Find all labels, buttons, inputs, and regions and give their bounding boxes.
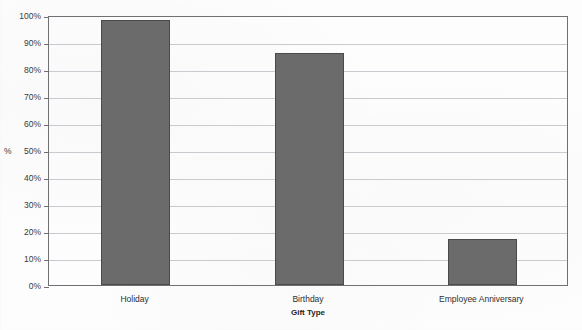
y-axis-tick-label: 10% xyxy=(0,254,41,264)
y-axis-tick xyxy=(44,233,49,234)
y-axis-tick xyxy=(44,206,49,207)
y-axis-tick-label: 90% xyxy=(0,38,41,48)
plot-area xyxy=(48,16,568,286)
y-axis-tick-label: 80% xyxy=(0,65,41,75)
x-axis-tick-label: Birthday xyxy=(292,294,323,304)
y-axis-tick-label: 40% xyxy=(0,173,41,183)
y-axis-tick xyxy=(44,152,49,153)
y-axis-tick xyxy=(44,260,49,261)
y-axis-tick xyxy=(44,98,49,99)
x-axis-tick-label: Holiday xyxy=(120,294,148,304)
y-axis-tick xyxy=(44,44,49,45)
y-axis-tick-label: 30% xyxy=(0,200,41,210)
y-axis-tick-label: 100% xyxy=(0,11,41,21)
x-axis-tick-label: Employee Anniversary xyxy=(439,294,524,304)
bar xyxy=(275,53,344,285)
y-axis-tick xyxy=(44,71,49,72)
y-axis-tick xyxy=(44,17,49,18)
bar-chart-figure: % 100%90%80%70%60%50%40%30%20%10%0% Holi… xyxy=(0,0,582,330)
bar xyxy=(448,239,517,285)
y-axis-tick xyxy=(44,287,49,288)
y-axis-tick-label: 20% xyxy=(0,227,41,237)
bar xyxy=(101,20,170,285)
chart-title xyxy=(0,0,582,1)
y-axis-tick-label: 0% xyxy=(0,281,41,291)
x-axis-title: Gift Type xyxy=(291,308,325,317)
y-axis-tick xyxy=(44,125,49,126)
y-axis-title: % xyxy=(4,146,12,156)
y-axis-tick-label: 60% xyxy=(0,119,41,129)
y-axis-tick xyxy=(44,179,49,180)
y-axis-tick-label: 70% xyxy=(0,92,41,102)
